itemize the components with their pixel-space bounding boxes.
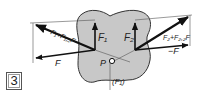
label-resultant-right: F₂+F₂,₂F <box>163 34 191 41</box>
label-reaction: (F₁) <box>112 77 125 86</box>
label-f-left: F <box>55 58 61 68</box>
force-diagram: F₁ F₂ F₁+F₁,₂F F F₂+F₂,₂F −F P (F₁) <box>0 0 210 98</box>
label-f2: F₂ <box>124 32 134 43</box>
point-p-marker <box>109 58 114 63</box>
label-f-right: −F <box>168 46 179 56</box>
label-resultant-left: F₁+F₁,₂F <box>50 28 77 44</box>
figure-number-badge: 3 <box>6 72 22 90</box>
label-point-p: P <box>100 58 106 68</box>
label-f1: F₁ <box>98 32 107 43</box>
